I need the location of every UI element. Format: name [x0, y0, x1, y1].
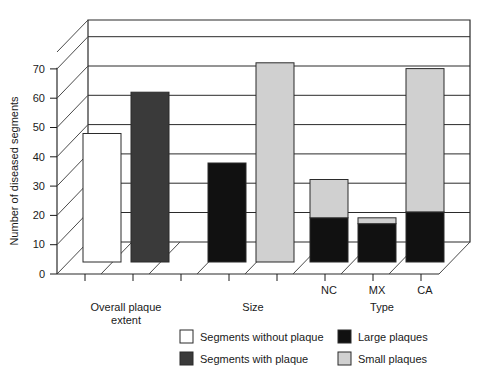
y-tick-label-60: 60 — [33, 92, 45, 104]
bar-small-plaques-size[interactable] — [256, 63, 294, 262]
bar-nc[interactable] — [310, 180, 348, 263]
bar-large-plaques-size[interactable] — [208, 163, 246, 262]
bar-segment-large-plaques[interactable] — [358, 224, 396, 262]
chart-canvas: 70 60 50 40 30 20 — [0, 0, 493, 374]
legend-label: Segments with plaque — [200, 353, 308, 365]
bar-chart-svg: 70 60 50 40 30 20 — [0, 0, 493, 374]
x-tick-label-ca: CA — [417, 284, 433, 296]
y-tick-10: 10 — [33, 238, 57, 250]
y-tick-70: 70 — [33, 63, 57, 75]
legend-label: Small plaques — [358, 353, 428, 365]
y-tick-60: 60 — [33, 92, 57, 104]
legend-swatch-black — [338, 330, 351, 343]
group-label-overall-plaque-extent-line1: Overall plaque — [91, 301, 162, 313]
depth-edge-60 — [57, 66, 88, 98]
y-tick-label-40: 40 — [33, 151, 45, 163]
bar-ca[interactable] — [406, 69, 444, 262]
bar-segment-large-plaques[interactable] — [310, 218, 348, 262]
y-tick-label-20: 20 — [33, 209, 45, 221]
legend-swatch-dark-grey — [180, 352, 193, 365]
y-tick-30: 30 — [33, 180, 57, 192]
x-axis-tick-labels: NC MX CA — [321, 284, 433, 296]
legend-swatch-light-grey — [338, 352, 351, 365]
legend-item-segments-with-plaque[interactable]: Segments with plaque — [180, 352, 308, 365]
bar-rect[interactable] — [256, 63, 294, 262]
group-label-size: Size — [242, 301, 263, 313]
y-tick-50: 50 — [33, 121, 57, 133]
legend-item-segments-without-plaque[interactable]: Segments without plaque — [180, 330, 324, 343]
group-label-type: Type — [370, 301, 394, 313]
legend-label: Segments without plaque — [200, 331, 324, 343]
bar-segment-small-plaques[interactable] — [310, 180, 348, 218]
x-axis-ticks — [85, 274, 421, 281]
y-tick-label-0: 0 — [39, 268, 45, 280]
legend-swatch-white — [180, 330, 193, 343]
legend-label: Large plaques — [358, 331, 428, 343]
y-tick-label-70: 70 — [33, 63, 45, 75]
depth-edge-50 — [57, 95, 88, 127]
y-axis-title: Number of diseased segments — [8, 96, 20, 246]
x-axis-group-labels: Overall plaque extent Size Type — [91, 301, 394, 326]
bar-mx[interactable] — [358, 218, 396, 262]
bar-rect[interactable] — [208, 163, 246, 262]
depth-edge-top — [57, 20, 88, 52]
x-tick-label-nc: NC — [321, 284, 337, 296]
y-tick-label-30: 30 — [33, 180, 45, 192]
legend: Segments without plaque Segments with pl… — [180, 330, 428, 365]
bar-segments-with-plaque[interactable] — [131, 92, 169, 262]
y-tick-20: 20 — [33, 209, 57, 221]
group-label-overall-plaque-extent-line2: extent — [111, 314, 141, 326]
bar-rect[interactable] — [83, 134, 121, 263]
y-axis: 70 60 50 40 30 20 — [8, 63, 57, 280]
y-tick-0: 0 — [39, 268, 57, 280]
bar-segment-small-plaques[interactable] — [358, 218, 396, 224]
legend-item-large-plaques[interactable]: Large plaques — [338, 330, 428, 343]
bar-segments-without-plaque[interactable] — [83, 134, 121, 263]
y-tick-label-50: 50 — [33, 121, 45, 133]
y-tick-40: 40 — [33, 151, 57, 163]
depth-edge-70 — [57, 37, 88, 69]
y-tick-label-10: 10 — [33, 238, 45, 250]
bar-segment-large-plaques[interactable] — [406, 212, 444, 262]
bar-segment-small-plaques[interactable] — [406, 69, 444, 212]
x-tick-label-mx: MX — [369, 284, 386, 296]
bar-rect[interactable] — [131, 92, 169, 262]
legend-item-small-plaques[interactable]: Small plaques — [338, 352, 428, 365]
